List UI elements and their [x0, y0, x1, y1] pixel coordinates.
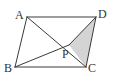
parallelogram-diagram: A D B C P	[0, 0, 113, 81]
label-d: D	[98, 7, 107, 21]
shaded-triangle-pcd	[69, 17, 96, 67]
label-a: A	[15, 8, 24, 22]
label-b: B	[4, 61, 12, 75]
segment-ba	[15, 17, 27, 67]
segment-bp	[15, 45, 69, 67]
label-p: P	[62, 47, 69, 61]
label-c: C	[88, 61, 96, 75]
